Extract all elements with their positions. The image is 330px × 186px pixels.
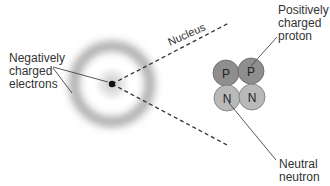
proton-label: Positively charged proton <box>278 4 329 43</box>
svg-text:P: P <box>247 65 255 79</box>
nucleus-dot <box>109 81 115 87</box>
neutron-particle: N <box>239 84 265 110</box>
neutron-particle: N <box>214 85 240 111</box>
neutron-leader-line <box>229 103 276 160</box>
neutron-label: Neutral neutron <box>279 158 320 184</box>
nucleus-particles: P P N N <box>213 58 265 111</box>
svg-text:N: N <box>248 91 257 105</box>
proton-particle: P <box>213 60 239 86</box>
atom-diagram: Nucleus P P N N Negatively c <box>0 0 330 186</box>
electrons-label: Negatively charged electrons <box>9 52 65 91</box>
proton-leader-line <box>251 37 277 66</box>
nucleus-label: Nucleus <box>166 20 208 47</box>
svg-text:N: N <box>223 92 232 106</box>
svg-text:P: P <box>222 67 230 81</box>
proton-particle: P <box>238 58 264 84</box>
